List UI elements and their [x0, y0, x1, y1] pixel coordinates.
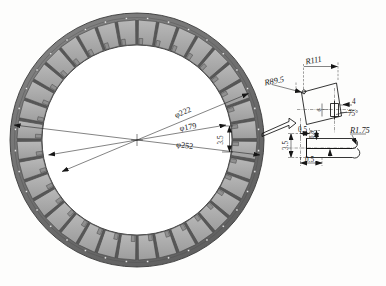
rivet-dot [125, 17, 127, 19]
rivet-dot [236, 69, 238, 71]
dimension-label-len-6: 6 [315, 108, 322, 111]
rivet-dot [206, 239, 208, 241]
rivet-dot [14, 150, 16, 152]
rivet-dot [84, 28, 86, 30]
magnet-segment-notch [231, 124, 237, 128]
rivet-dot [36, 209, 38, 211]
dimension-label-rad-89-5: R89.5 [263, 75, 285, 88]
rivet-dot [206, 39, 208, 41]
rivet-dot [257, 128, 259, 130]
rivet-dot [18, 171, 20, 173]
rivet-dot [84, 250, 86, 252]
magnet-segment-notch [36, 151, 42, 155]
rivet-dot [168, 257, 170, 259]
dimension-label-rad-1-75: R1.75 [349, 126, 370, 135]
rivet-dot [254, 107, 256, 109]
dimension-rad-111 [304, 62, 339, 89]
rivet-dot [222, 225, 224, 227]
dimension-label-len-0-5-bottom: 0.5 [305, 156, 314, 164]
rivet-dot [188, 250, 190, 252]
rivet-dot [254, 171, 256, 173]
rivet-dot [104, 257, 106, 259]
rivet-dot [247, 191, 249, 193]
dimension-label-rad-111: R111 [304, 54, 323, 66]
rivet-dot [18, 107, 20, 109]
dimension-rad-1-75 [350, 134, 366, 145]
rivet-dot [168, 21, 170, 23]
magnet-segment-notch [139, 38, 143, 44]
rivet-dot [14, 128, 16, 130]
magnet-slot-detail-view: R111 R89.5 4 75° 6 [263, 54, 370, 166]
magnet-segment-notch [35, 134, 41, 138]
magnet-segment-notch [148, 234, 152, 240]
rivet-dot [50, 53, 52, 55]
rivet-dot [104, 21, 106, 23]
rivet-dot [236, 209, 238, 211]
rivet-dot [188, 28, 190, 30]
rivet-dot [125, 260, 127, 262]
magnet-segment-notch [131, 235, 135, 241]
dimension-label-len-0-5-top: 0.5 [298, 126, 307, 134]
dimension-label-len-3-5-ring: 3.5 [217, 135, 225, 144]
magnet-segment-notch [232, 142, 238, 146]
rivet-dot [25, 191, 27, 193]
rivet-dot [147, 260, 149, 262]
rivet-dot [66, 39, 68, 41]
dimension-label-len-4: 4 [352, 98, 356, 106]
rivet-dot [257, 150, 259, 152]
drawing-svg: φ222 φ179 φ252 3.5 [0, 0, 386, 286]
rivet-dot [222, 53, 224, 55]
rivet-dot [147, 17, 149, 19]
rivet-dot [247, 87, 249, 89]
rivet-dot [50, 225, 52, 227]
rivet-dot [36, 69, 38, 71]
magnet-segment-notch [121, 39, 125, 45]
dimension-label-len-0-8: 0.8 [308, 131, 315, 139]
dimension-label-len-3-5-detail: 3.5 [282, 141, 290, 150]
base-slot-outline [307, 139, 360, 159]
rivet-dot [25, 87, 27, 89]
technical-drawing-canvas: φ222 φ179 φ252 3.5 [0, 0, 386, 286]
ring-assembly-view: φ222 φ179 φ252 3.5 [10, 13, 264, 267]
dimension-label-ang-75: 75° [348, 110, 358, 118]
segment-gap-key [136, 20, 139, 44]
rivet-dot [66, 239, 68, 241]
dimension-len-3-5-detail [288, 134, 306, 158]
